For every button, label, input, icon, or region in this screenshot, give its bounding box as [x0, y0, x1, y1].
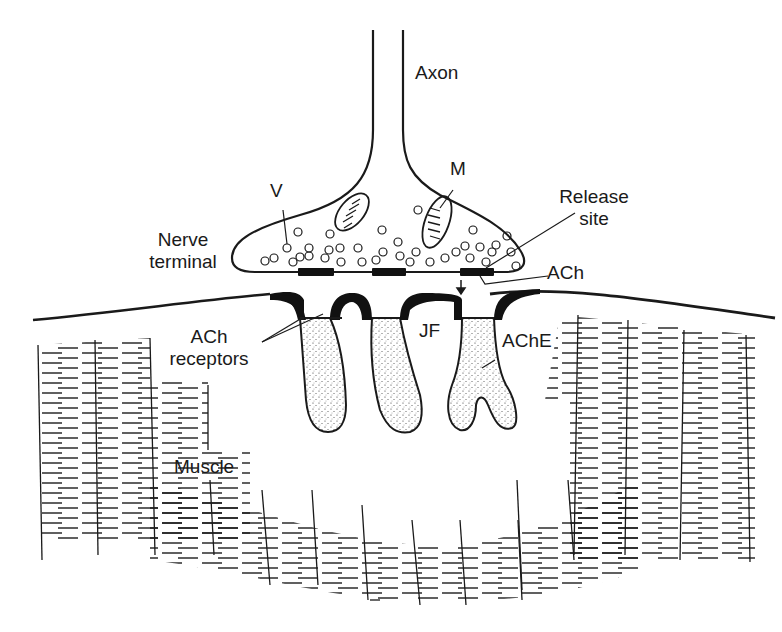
- release-sites: [298, 268, 494, 276]
- axon: [232, 30, 524, 272]
- label-junctional-fold: JF: [419, 320, 440, 342]
- neuromuscular-junction-diagram: [0, 0, 782, 632]
- label-ach-receptors: ACh receptors: [150, 326, 268, 370]
- label-nerve-terminal: Nerve terminal: [140, 229, 226, 273]
- label-ach-receptors-line2: receptors: [150, 348, 268, 370]
- label-release-site-line2: site: [558, 208, 630, 230]
- label-muscle: Muscle: [174, 456, 234, 478]
- label-ache: AChE: [502, 330, 552, 352]
- label-nerve-terminal-line1: Nerve: [140, 229, 226, 251]
- label-ach: ACh: [547, 262, 584, 284]
- label-axon: Axon: [415, 62, 458, 84]
- release-arrow-icon: [457, 280, 465, 294]
- muscle-fiber-right: [545, 315, 755, 562]
- label-ach-receptors-line1: ACh: [150, 326, 268, 348]
- mitochondrion-icon: [329, 187, 458, 251]
- label-nerve-terminal-line2: terminal: [140, 251, 226, 273]
- label-vesicle: V: [270, 180, 283, 202]
- label-release-site-line1: Release: [558, 186, 630, 208]
- label-mitochondrion: M: [450, 158, 466, 180]
- label-release-site: Release site: [558, 186, 630, 230]
